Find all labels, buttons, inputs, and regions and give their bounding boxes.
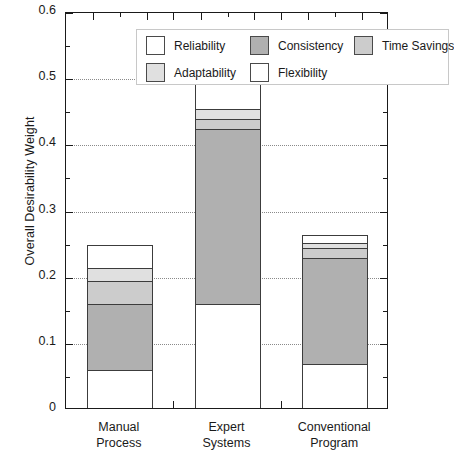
y-tick-left-0.55 <box>66 46 70 47</box>
legend-swatch-adaptability <box>146 63 165 82</box>
y-tick-left-0.3 <box>66 212 73 213</box>
bar-segment-time-savings <box>87 281 153 304</box>
x-tick-top <box>281 13 282 20</box>
bar-segment-flexibility <box>302 235 368 243</box>
chart-legend: ReliabilityConsistencyTime SavingsAdapta… <box>136 29 449 85</box>
y-tick-label-0.2: 0.2 <box>0 268 56 282</box>
bar-segment-adaptability <box>302 243 368 248</box>
bar-segment-flexibility <box>87 245 153 268</box>
y-tick-label-0.3: 0.3 <box>0 202 56 216</box>
y-tick-right-0.2 <box>380 278 387 279</box>
x-tick-top <box>173 13 174 20</box>
y-tick-left-0.25 <box>66 245 70 246</box>
y-tick-label-0.4: 0.4 <box>0 135 56 149</box>
y-tick-left-0.5 <box>66 79 73 80</box>
y-tick-left-0.1 <box>66 344 73 345</box>
y-tick-label-0: 0 <box>0 400 56 414</box>
y-tick-label-0.6: 0.6 <box>0 3 56 17</box>
x-category-label-conventional-program: ConventionalProgram <box>269 419 399 451</box>
bar-segment-consistency <box>195 129 261 304</box>
bar-segment-time-savings <box>195 119 261 129</box>
legend-entry-reliability[interactable]: Reliability <box>146 36 225 55</box>
legend-label-flexibility: Flexibility <box>278 66 327 80</box>
legend-swatch-reliability <box>146 36 165 55</box>
bar-segment-adaptability <box>87 268 153 281</box>
y-tick-left-0.35 <box>66 178 70 179</box>
bar-segment-consistency <box>87 304 153 370</box>
bar-segment-reliability <box>87 370 153 408</box>
legend-entry-flexibility[interactable]: Flexibility <box>250 63 327 82</box>
legend-label-reliability: Reliability <box>174 39 225 53</box>
y-tick-left-0.2 <box>66 278 73 279</box>
y-tick-right-0.45 <box>383 112 387 113</box>
y-tick-label-0.1: 0.1 <box>0 334 56 348</box>
y-tick-right-0.1 <box>380 344 387 345</box>
bar-segment-time-savings <box>302 248 368 258</box>
x-category-label-line: Conventional <box>269 419 399 435</box>
y-tick-right-0.25 <box>383 245 387 246</box>
x-tick-bottom <box>281 401 282 408</box>
y-tick-right-0.6 <box>380 13 387 14</box>
legend-entry-time-savings[interactable]: Time Savings <box>354 36 454 55</box>
y-tick-right-0.3 <box>380 212 387 213</box>
bar-segment-consistency <box>302 258 368 364</box>
y-tick-right-0.4 <box>380 145 387 146</box>
legend-swatch-time-savings <box>354 36 373 55</box>
y-tick-left-0.15 <box>66 311 70 312</box>
x-category-label-line: Program <box>269 435 399 451</box>
legend-label-adaptability: Adaptability <box>174 66 236 80</box>
y-tick-left-0.45 <box>66 112 70 113</box>
y-tick-left-0.6 <box>66 13 73 14</box>
x-tick-bottom <box>173 401 174 408</box>
legend-label-time-savings: Time Savings <box>382 39 454 53</box>
y-tick-left-0.4 <box>66 145 73 146</box>
y-tick-right-0.35 <box>383 178 387 179</box>
bar-segment-reliability <box>195 304 261 408</box>
y-tick-left-0.05 <box>66 377 70 378</box>
plot-area: ReliabilityConsistencyTime SavingsAdapta… <box>65 12 388 409</box>
legend-swatch-consistency <box>250 36 269 55</box>
legend-label-consistency: Consistency <box>278 39 343 53</box>
bar-segment-reliability <box>302 364 368 408</box>
bar-segment-adaptability <box>195 109 261 119</box>
legend-entry-consistency[interactable]: Consistency <box>250 36 343 55</box>
y-tick-label-0.5: 0.5 <box>0 69 56 83</box>
legend-entry-adaptability[interactable]: Adaptability <box>146 63 236 82</box>
legend-swatch-flexibility <box>250 63 269 82</box>
y-tick-right-0.15 <box>383 311 387 312</box>
y-tick-right-0.05 <box>383 377 387 378</box>
